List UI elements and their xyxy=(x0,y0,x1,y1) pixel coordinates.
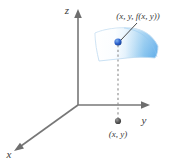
x-axis-line xyxy=(21,105,78,146)
domain-point-label: (x, y) xyxy=(109,129,127,139)
surface-plot-figure: z y x (x, y, f(x, y)) (x, y) xyxy=(0,0,173,164)
y-axis-arrowhead xyxy=(141,101,150,109)
surface-point-label: (x, y, f(x, y)) xyxy=(116,11,159,21)
surface-patch xyxy=(95,28,158,61)
coordinate-system-svg: z y x (x, y, f(x, y)) (x, y) xyxy=(0,0,173,164)
z-axis-label: z xyxy=(64,4,70,16)
x-axis-label: x xyxy=(6,148,12,160)
z-axis-arrowhead xyxy=(74,9,82,18)
surface-point-marker xyxy=(114,38,121,45)
domain-point-marker xyxy=(115,118,121,124)
surface-highlight xyxy=(95,28,158,61)
y-axis-label: y xyxy=(141,114,147,126)
